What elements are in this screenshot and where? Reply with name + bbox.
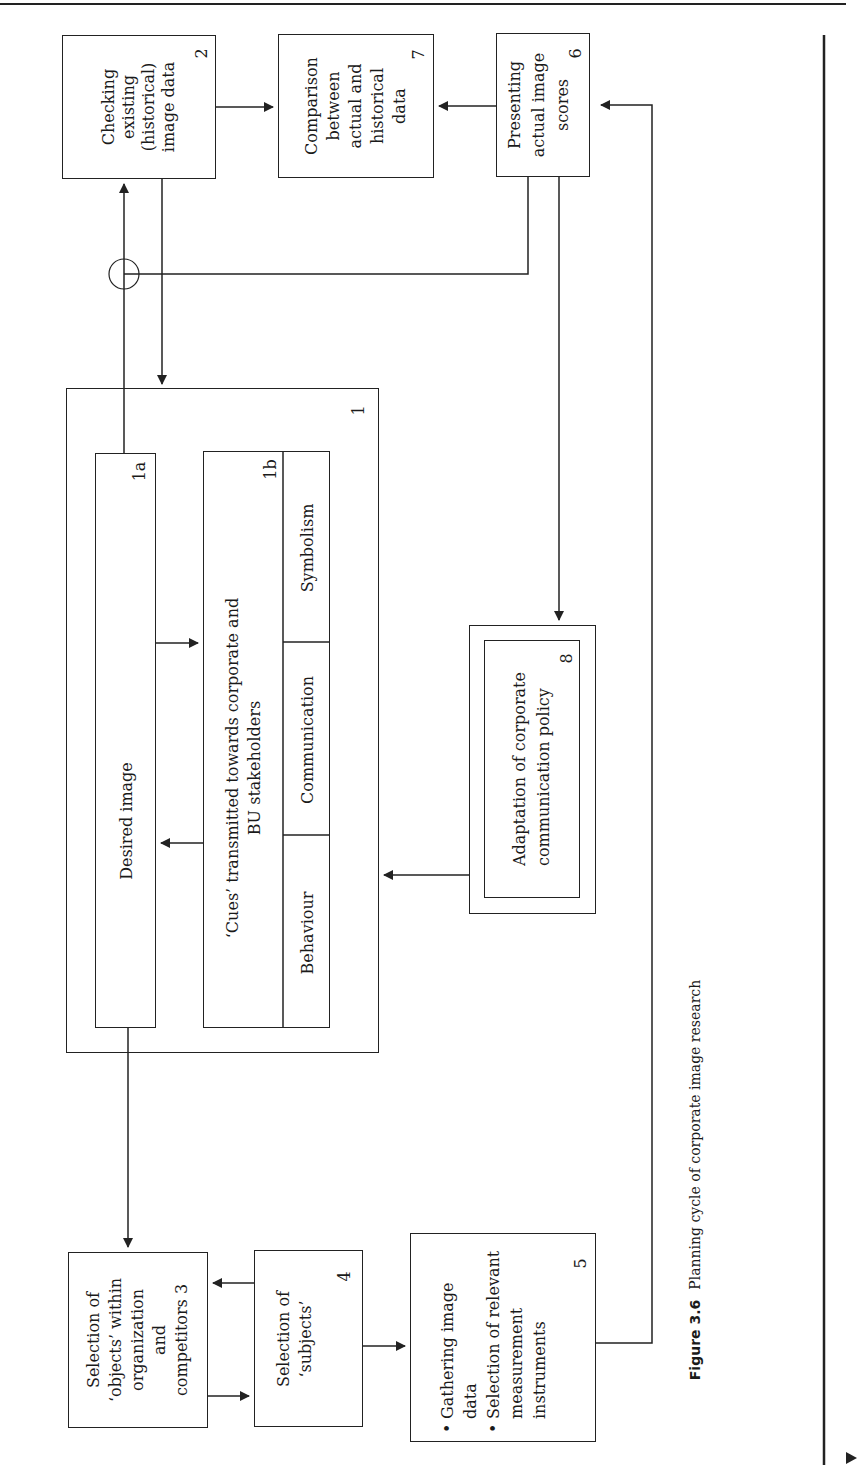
box-1-number: 1 — [349, 405, 368, 415]
box-2-number: 2 — [192, 48, 211, 58]
box-4-line: ‘subjects’ — [295, 1290, 317, 1386]
cue-cell-behaviour: Behaviour — [284, 836, 330, 1029]
box-5-bullet: Selection of relevant measurement instru… — [482, 1243, 551, 1433]
box-1b-title-line: BU stakeholders — [244, 598, 266, 938]
box-2-line: (historical) — [139, 62, 159, 152]
box-5-gathering-data: Gathering image data Selection of releva… — [410, 1233, 596, 1442]
box-5-bullet: Gathering image data — [436, 1243, 482, 1433]
figure-caption-text: Planning cycle of corporate image resear… — [687, 980, 703, 1290]
box-2-line: image data — [159, 62, 179, 152]
box-8-number: 8 — [557, 653, 576, 663]
box-7-comparison: Comparison between actual and historical… — [278, 34, 434, 178]
cue-cell-communication: Communication — [284, 643, 330, 836]
cue-cell-symbolism: Symbolism — [284, 452, 330, 643]
box-5-text: Gathering image data Selection of releva… — [436, 1243, 551, 1433]
box-3-line: ‘objects’ within — [105, 1278, 127, 1402]
box-7-line: actual and — [345, 57, 367, 155]
box-2-line: existing — [119, 62, 139, 152]
cue-label-symbolism: Symbolism — [298, 503, 317, 592]
box-3-line: organization — [127, 1278, 149, 1402]
box-7-line: historical — [367, 57, 389, 155]
figure-caption: Figure 3.6Planning cycle of corporate im… — [687, 980, 703, 1380]
box-3-line: competitors 3 — [171, 1278, 193, 1402]
box-1a-title: Desired image — [116, 762, 135, 880]
page-marker-icon — [846, 1452, 857, 1464]
box-4-number: 4 — [335, 1271, 354, 1281]
box-3-line: and — [149, 1278, 171, 1402]
box-4-selection-subjects: Selection of ‘subjects’ 4 — [254, 1250, 363, 1427]
box-2-checking-historical-data: Checking existing (historical) image dat… — [62, 35, 216, 179]
box-1a-number: 1a — [130, 462, 149, 482]
box-3-text: Selection of ‘objects’ within organizati… — [83, 1278, 193, 1402]
cue-label-behaviour: Behaviour — [298, 891, 317, 974]
box-8-line: Adaptation of corporate — [508, 672, 532, 866]
box-1b-number: 1b — [261, 459, 280, 479]
box-3-line: Selection of — [83, 1278, 105, 1402]
cue-label-communication: Communication — [298, 676, 317, 804]
box-2-text: Checking existing (historical) image dat… — [99, 62, 179, 152]
box-1a-desired-image: Desired image 1a — [95, 453, 156, 1028]
box-5-number: 5 — [571, 1258, 590, 1268]
box-7-line: data — [389, 57, 411, 155]
box-1b-title-line: ‘Cues’ transmitted towards corporate and — [222, 598, 244, 938]
box-8-line: communication policy — [532, 672, 556, 866]
box-7-line: between — [323, 57, 345, 155]
box-6-line: scores — [551, 53, 575, 158]
box-6-line: actual image — [527, 53, 551, 158]
box-6-presenting-scores: Presenting actual image scores 6 — [496, 33, 590, 177]
box-1b-cues: ‘Cues’ transmitted towards corporate and… — [203, 451, 330, 1028]
box-4-text: Selection of ‘subjects’ — [273, 1290, 317, 1386]
box-6-number: 6 — [566, 48, 585, 58]
box-7-line: Comparison — [301, 57, 323, 155]
box-5-bullets: Gathering image data Selection of releva… — [436, 1243, 551, 1433]
box-1b-title: ‘Cues’ transmitted towards corporate and… — [222, 598, 266, 938]
box-3-selection-objects: Selection of ‘objects’ within organizati… — [68, 1252, 208, 1428]
box-8-adaptation-outer: Adaptation of corporate communication po… — [469, 625, 596, 914]
box-7-text: Comparison between actual and historical… — [301, 57, 411, 155]
box-8-adaptation-inner: Adaptation of corporate communication po… — [484, 640, 580, 898]
box-8-text: Adaptation of corporate communication po… — [508, 672, 556, 866]
figure-label: Figure 3.6 — [687, 1300, 703, 1380]
box-7-number: 7 — [409, 49, 428, 59]
box-6-line: Presenting — [503, 53, 527, 158]
box-4-line: Selection of — [273, 1290, 295, 1386]
box-2-line: Checking — [99, 62, 119, 152]
box-6-text: Presenting actual image scores — [503, 53, 575, 158]
